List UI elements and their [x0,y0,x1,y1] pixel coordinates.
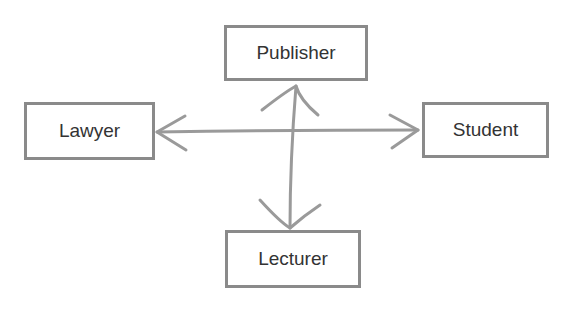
node-lecturer: Lecturer [225,230,361,288]
node-student: Student [422,102,549,158]
node-label: Publisher [256,42,335,64]
node-label: Lecturer [258,248,328,270]
node-label: Student [453,119,519,141]
arrowhead-up-icon [262,86,318,115]
node-publisher: Publisher [224,25,368,81]
node-lawyer: Lawyer [24,102,155,160]
node-label: Lawyer [59,120,120,142]
edge-lawyer-student [157,130,418,132]
edge-publisher-lecturer [290,86,296,228]
